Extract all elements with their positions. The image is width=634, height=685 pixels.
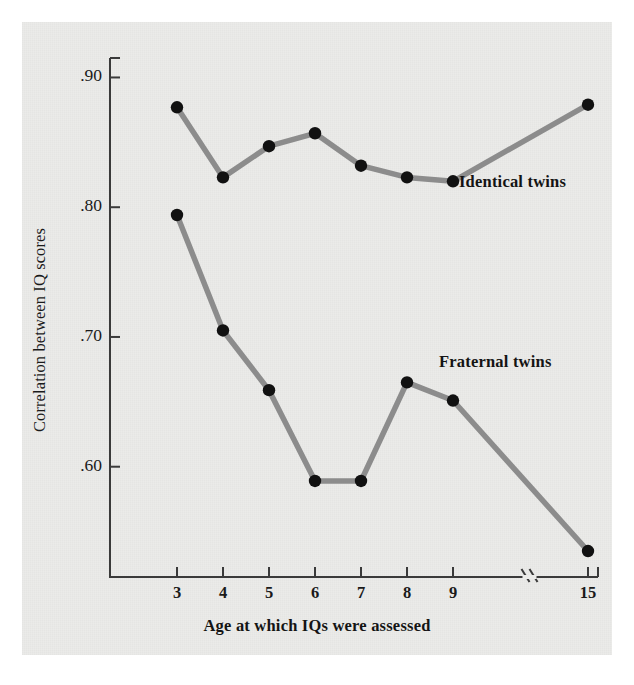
x-tick-label: 3 <box>157 583 197 603</box>
x-tick-label: 8 <box>387 583 427 603</box>
data-point-marker <box>171 209 183 221</box>
data-point-marker <box>171 101 183 113</box>
data-point-marker <box>447 394 459 406</box>
series-label-identical-twins: Identical twins <box>459 172 566 192</box>
series-line-fraternal-twins <box>177 215 588 551</box>
data-point-marker <box>217 324 229 336</box>
data-point-marker <box>401 171 413 183</box>
data-point-marker <box>447 175 459 187</box>
x-tick-label: 4 <box>203 583 243 603</box>
data-point-marker <box>309 127 321 139</box>
data-point-marker <box>582 99 594 111</box>
data-series-group <box>171 99 594 558</box>
data-point-marker <box>263 140 275 152</box>
series-label-fraternal-twins: Fraternal twins <box>439 352 552 372</box>
data-point-marker <box>355 159 367 171</box>
data-point-marker <box>263 384 275 396</box>
figure-panel: Correlation between IQ scores Age at whi… <box>22 22 612 655</box>
x-tick-label: 5 <box>249 583 289 603</box>
x-tick-label: 6 <box>295 583 335 603</box>
data-point-marker <box>217 171 229 183</box>
y-tick-label: .80 <box>56 195 102 216</box>
chart-plot-area <box>22 22 612 655</box>
x-tick-label: 7 <box>341 583 381 603</box>
x-axis-label: Age at which IQs were assessed <box>22 616 612 636</box>
series-line-identical-twins <box>177 105 588 182</box>
x-tick-label: 9 <box>433 583 473 603</box>
data-point-marker <box>401 376 413 388</box>
y-tick-label: .90 <box>56 65 102 86</box>
x-tick-label: 15 <box>568 583 608 603</box>
y-tick-label: .60 <box>56 455 102 476</box>
data-point-marker <box>355 475 367 487</box>
y-tick-label: .70 <box>56 325 102 346</box>
data-point-marker <box>582 545 594 557</box>
axis-lines <box>110 58 598 582</box>
data-point-marker <box>309 475 321 487</box>
